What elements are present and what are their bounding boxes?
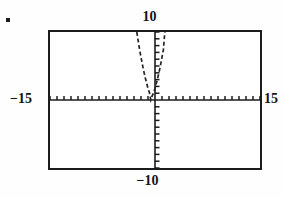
plot-canvas [50, 32, 260, 168]
window-xmax-label: 15 [264, 92, 278, 106]
window-ymax-label: 10 [8, 10, 283, 24]
axes-group [50, 32, 260, 168]
curve-group [137, 32, 165, 100]
calculator-screen-frame [48, 30, 262, 170]
window-xmin-label: −15 [10, 92, 32, 106]
graph-figure: 10 −15 15 −10 [0, 0, 283, 197]
function-curve [137, 32, 165, 100]
window-ymin-label: −10 [6, 174, 283, 188]
